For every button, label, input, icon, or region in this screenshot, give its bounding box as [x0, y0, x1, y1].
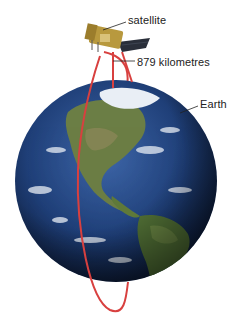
- satellite-orbit-diagram: satellite 879 kilometres Earth: [0, 0, 235, 331]
- altitude-label: 879 kilometres: [137, 56, 210, 68]
- satellite-icon: [84, 23, 150, 52]
- satellite-label: satellite: [128, 14, 166, 26]
- earth-label: Earth: [200, 98, 227, 110]
- diagram-canvas: [0, 0, 235, 331]
- earth-globe: [15, 80, 217, 300]
- satellite-leader-line: [103, 22, 126, 30]
